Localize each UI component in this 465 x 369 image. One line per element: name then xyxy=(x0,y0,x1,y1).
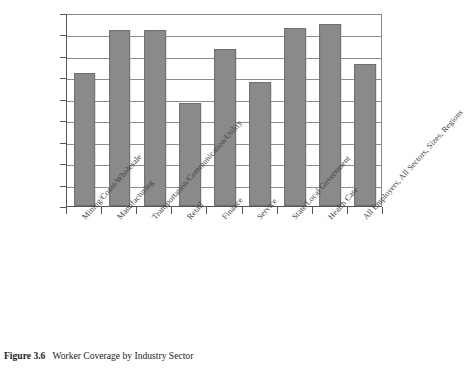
y-axis-tick-mark xyxy=(60,186,66,187)
x-axis-tick-mark xyxy=(136,207,137,214)
figure-caption: Figure 3.6Worker Coverage by Industry Se… xyxy=(4,350,399,362)
bar[interactable] xyxy=(284,28,306,206)
figure-caption-text: Worker Coverage by Industry Sector xyxy=(52,350,193,361)
bar-slot xyxy=(278,15,313,206)
y-axis-tick-mark xyxy=(60,14,66,15)
y-axis-tick-mark xyxy=(60,100,66,101)
x-axis-tick-mark xyxy=(382,207,383,214)
y-axis-tick-mark xyxy=(60,57,66,58)
bar[interactable] xyxy=(249,82,271,206)
x-axis-tick-mark xyxy=(242,207,243,214)
y-axis-tick-mark xyxy=(60,164,66,165)
bar-slot xyxy=(348,15,383,206)
bar-slot xyxy=(243,15,278,206)
bar[interactable] xyxy=(355,64,377,206)
bar-slot xyxy=(207,15,242,206)
x-axis-tick-mark xyxy=(347,207,348,214)
x-axis-tick-mark xyxy=(101,207,102,214)
x-axis-tick-mark xyxy=(312,207,313,214)
bar-slot xyxy=(137,15,172,206)
figure-number: Figure 3.6 xyxy=(4,350,45,361)
x-axis-tick-mark xyxy=(171,207,172,214)
bar-slot xyxy=(67,15,102,206)
bar[interactable] xyxy=(74,73,96,206)
y-axis-tick-mark xyxy=(60,78,66,79)
x-axis-tick-mark xyxy=(206,207,207,214)
x-axis-tick-mark xyxy=(277,207,278,214)
y-axis-tick-mark xyxy=(60,121,66,122)
y-axis-tick-mark xyxy=(60,143,66,144)
y-axis-tick-mark xyxy=(60,35,66,36)
x-axis-tick-mark xyxy=(66,207,67,214)
